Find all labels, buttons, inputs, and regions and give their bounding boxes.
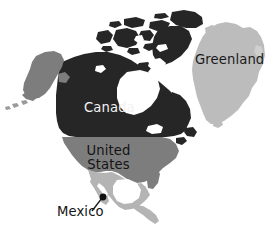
canada-banks-island: [96, 30, 113, 44]
region-greenland: [192, 22, 265, 128]
united-states-aleutian-islands: [5, 100, 28, 110]
region-label-united-states: United States: [85, 144, 132, 173]
canada-arctic-islet-g: [101, 46, 113, 52]
canada-newfoundland: [184, 127, 197, 137]
region-canada: [56, 10, 203, 145]
canada-arctic-islet-d: [127, 48, 140, 55]
north-america-map-figure: Canada United States Greenland Mexico: [0, 0, 270, 235]
canada-ellesmere-island: [170, 10, 203, 28]
mexico-location-marker: [100, 194, 107, 201]
canada-nova-scotia: [176, 137, 187, 145]
canada-arctic-islet-b: [154, 13, 169, 19]
hudson-strait-water: [160, 70, 177, 80]
region-label-united-states-line1: United: [85, 144, 132, 158]
region-label-canada: Canada: [84, 101, 135, 115]
canada-melville-island: [124, 17, 145, 28]
mexico-yucatan: [140, 189, 150, 200]
region-label-mexico: Mexico: [57, 205, 104, 219]
map-graphic: [0, 0, 270, 235]
greenland-landmass: [192, 22, 265, 124]
canada-arctic-islet-a: [109, 21, 122, 28]
region-label-greenland: Greenland: [195, 53, 264, 67]
central-america-isthmus: [133, 205, 159, 224]
region-label-united-states-line2: States: [85, 158, 132, 172]
